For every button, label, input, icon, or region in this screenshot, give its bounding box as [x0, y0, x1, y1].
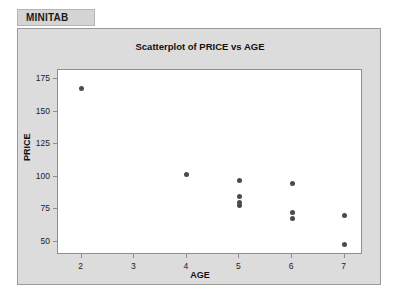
x-tick-label: 5	[236, 261, 241, 271]
scatter-point	[290, 216, 295, 221]
x-tick-label: 3	[131, 261, 136, 271]
x-tick-mark	[186, 254, 187, 258]
scatter-point	[237, 178, 242, 183]
minitab-tab[interactable]: MINITAB	[17, 9, 95, 26]
scatter-point	[79, 86, 84, 91]
scatter-point	[290, 181, 295, 186]
y-tick-label: 50	[18, 236, 50, 246]
x-tick-mark	[133, 254, 134, 258]
x-tick-mark	[81, 254, 82, 258]
scatter-point	[237, 203, 242, 208]
chart-panel: Scatterplot of PRICE vs AGE PRICE AGE 50…	[17, 28, 381, 285]
x-tick-mark	[238, 254, 239, 258]
x-tick-label: 4	[183, 261, 188, 271]
x-tick-label: 2	[78, 261, 83, 271]
screenshot-root: MINITAB Scatterplot of PRICE vs AGE PRIC…	[0, 0, 398, 300]
x-tick-mark	[344, 254, 345, 258]
y-tick-label: 125	[18, 138, 50, 148]
scatter-point	[184, 172, 189, 177]
x-tick-label: 7	[341, 261, 346, 271]
y-tick-label: 75	[18, 203, 50, 213]
x-tick-label: 6	[289, 261, 294, 271]
scatter-point	[237, 194, 242, 199]
minitab-tab-label: MINITAB	[26, 12, 68, 23]
chart-title: Scatterplot of PRICE vs AGE	[18, 41, 382, 52]
x-tick-mark	[291, 254, 292, 258]
x-axis-title: AGE	[18, 270, 382, 280]
plot-area	[57, 69, 362, 254]
y-tick-label: 100	[18, 171, 50, 181]
scatter-point	[290, 210, 295, 215]
y-tick-label: 175	[18, 73, 50, 83]
scatter-point	[342, 242, 347, 247]
y-tick-label: 150	[18, 106, 50, 116]
scatter-point	[342, 213, 347, 218]
